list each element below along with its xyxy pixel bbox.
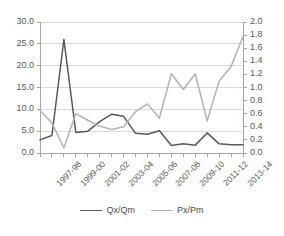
y-axis-right-tick-label: 0.4	[250, 122, 282, 131]
y-axis-right-tick-label: 0.0	[250, 148, 282, 157]
y-axis-right-tick-label: 0.6	[250, 109, 282, 118]
y-axis-left-tick-label: 5.0	[2, 126, 34, 135]
y-axis-left-tick-label: 20.0	[2, 61, 34, 70]
y-axis-right-tick-label: 1.6	[250, 43, 282, 52]
y-axis-right-tick-label: 2.0	[250, 17, 282, 26]
chart-container: 0.05.010.015.020.025.030.0 0.00.20.40.60…	[0, 0, 284, 236]
legend-item-px-pm: Px/Pm	[151, 206, 204, 215]
y-axis-right-tick-label: 1.2	[250, 69, 282, 78]
y-axis-left-tick-label: 0.0	[2, 148, 34, 157]
chart-legend: Qx/Qm Px/Pm	[0, 206, 284, 215]
y-axis-right-tick-label: 0.8	[250, 96, 282, 105]
legend-line-swatch-px-pm	[151, 210, 173, 211]
y-axis-left-tick-label: 25.0	[2, 39, 34, 48]
y-axis-left-tick-label: 30.0	[2, 17, 34, 26]
y-axis-right-tick-label: 1.0	[250, 83, 282, 92]
y-axis-right-tick-label: 1.8	[250, 30, 282, 39]
y-axis-right-tick-label: 0.2	[250, 135, 282, 144]
y-axis-left-tick-label: 15.0	[2, 83, 34, 92]
line-chart-plot	[0, 0, 284, 236]
legend-label-px-pm: Px/Pm	[177, 206, 204, 215]
y-axis-left-tick-label: 10.0	[2, 104, 34, 113]
y-axis-right-tick-label: 1.4	[250, 56, 282, 65]
legend-line-swatch-qx-qm	[80, 210, 102, 211]
legend-label-qx-qm: Qx/Qm	[106, 206, 135, 215]
legend-item-qx-qm: Qx/Qm	[80, 206, 135, 215]
